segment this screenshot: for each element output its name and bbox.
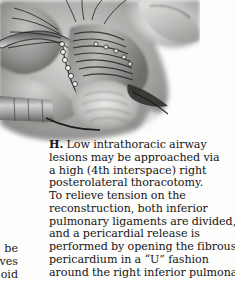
fragment-line-3: oid [0, 269, 18, 281]
caption-line-1-text: Low intrathoracic airway [67, 138, 207, 151]
caption-line-9: performed by opening the fibrous [49, 241, 235, 254]
caption-line-10: pericardium in a “U” fashion [49, 254, 235, 267]
figure-caption: H. Low intrathoracic airway lesions may … [49, 139, 235, 279]
fragment-line-2: olves [0, 256, 18, 269]
figure-page: H. Low intrathoracic airway lesions may … [0, 0, 235, 281]
adjacent-column-fragment: be olves oid [0, 243, 18, 281]
caption-line-5: To relieve tension on the [49, 190, 235, 203]
caption-line-1: H. Low intrathoracic airway [49, 139, 235, 152]
fragment-line-1: be [0, 243, 18, 256]
surgical-illustration [0, 0, 200, 160]
panel-letter: H. [49, 138, 63, 151]
caption-line-6: reconstruction, both inferior [49, 203, 235, 216]
caption-line-11: around the right inferior pulmonary [49, 267, 235, 280]
caption-line-2: lesions may be approached via [49, 152, 235, 165]
